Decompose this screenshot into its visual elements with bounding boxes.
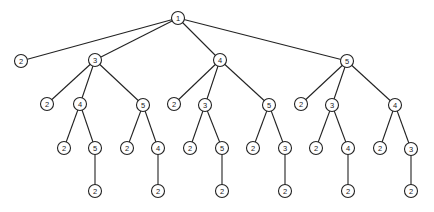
tree-node: 2 [168,98,181,111]
node-label: 2 [62,144,66,153]
node-label: 3 [93,56,97,65]
node-label: 2 [378,144,382,153]
tree-node: 1 [172,12,185,25]
node-label: 5 [345,57,349,66]
tree-node: 2 [41,98,54,111]
tree-node: 2 [374,142,387,155]
node-label: 4 [218,56,222,65]
node-label: 5 [267,101,271,110]
node-label: 3 [283,144,287,153]
tree-edge [21,18,178,61]
tree-node: 5 [341,55,354,68]
tree-node: 4 [74,98,87,111]
tree-node: 2 [89,185,102,198]
node-label: 4 [156,144,160,153]
tree-node: 5 [89,142,102,155]
tree-edge [95,18,178,60]
node-label: 3 [409,145,413,154]
node-label: 1 [176,14,180,23]
node-label: 2 [251,144,255,153]
tree-node: 3 [199,99,212,112]
tree-edge [178,18,220,60]
node-label: 4 [346,144,350,153]
tree-node: 2 [152,185,165,198]
node-label: 4 [393,101,397,110]
tree-node: 3 [279,142,292,155]
tree-node: 3 [326,99,339,112]
tree-node: 5 [263,99,276,112]
node-label: 2 [409,187,413,196]
tree-node: 5 [137,99,150,112]
tree-node: 5 [216,142,229,155]
node-label: 2 [346,187,350,196]
tree-diagram: 12324252524242325252325232424232 [0,0,434,212]
node-label: 2 [299,100,303,109]
node-label: 2 [314,144,318,153]
tree-edge [95,60,143,105]
tree-node: 2 [184,142,197,155]
node-label: 2 [156,187,160,196]
tree-edge [220,60,269,105]
node-label: 2 [93,187,97,196]
node-label: 4 [78,100,82,109]
tree-node: 4 [214,54,227,67]
node-label: 3 [203,101,207,110]
tree-node: 4 [389,99,402,112]
tree-node: 4 [152,142,165,155]
tree-node: 2 [216,185,229,198]
node-label: 2 [45,100,49,109]
tree-node: 2 [342,185,355,198]
node-label: 5 [220,144,224,153]
node-label: 2 [283,187,287,196]
tree-node: 3 [405,143,418,156]
node-label: 2 [125,144,129,153]
node-label: 5 [141,101,145,110]
tree-node: 2 [58,142,71,155]
node-label: 2 [188,144,192,153]
tree-node: 2 [121,142,134,155]
tree-node: 2 [310,142,323,155]
tree-node: 2 [295,98,308,111]
node-label: 2 [172,100,176,109]
node-label: 5 [93,144,97,153]
node-label: 2 [220,187,224,196]
tree-node: 2 [247,142,260,155]
tree-node: 3 [89,54,102,67]
tree-node: 2 [15,55,28,68]
tree-edge [178,18,347,61]
tree-node: 4 [342,142,355,155]
nodes: 12324252524242325252325232424232 [15,12,418,198]
tree-node: 2 [405,185,418,198]
tree-edge [347,61,395,105]
tree-node: 2 [279,185,292,198]
node-label: 2 [19,57,23,66]
node-label: 3 [330,101,334,110]
